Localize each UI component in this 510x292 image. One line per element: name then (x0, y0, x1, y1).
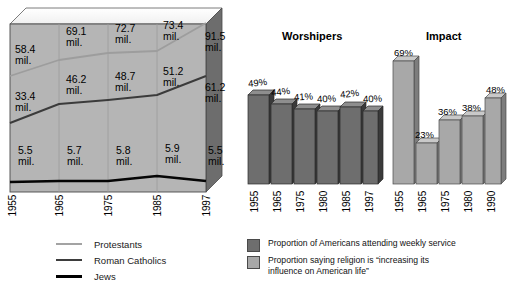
infographic-root: 58.4 mil. 69.1 mil. 72.7 mil. 73.4 mil. … (0, 0, 510, 292)
line-x-label-1955: 1955 (8, 195, 18, 216)
protestants-value-1965: 69.1 mil. (66, 26, 86, 48)
bar-legend-label-increasing-influence: Proportion saying religion is “increasin… (268, 255, 429, 276)
legend-label-roman-catholics: Roman Catholics (94, 255, 166, 266)
impact-x-label-1975: 1975 (441, 191, 451, 212)
catholics-value-1965: 46.2 mil. (66, 74, 86, 96)
protestants-value-1955: 58.4 mil. (15, 44, 35, 66)
jews-line-swatch-icon (56, 275, 82, 278)
bar-impact-1980 (462, 111, 488, 184)
increasing-influence-swatch-icon (247, 256, 260, 269)
worshipers-value-1965: 44% (270, 85, 290, 98)
impact-bar-chart: Impact (390, 30, 510, 220)
worshipers-value-1997: 40% (363, 93, 383, 105)
bar-impact-1965 (416, 138, 442, 184)
bar-legend-item-weekly-service: Proportion of Americans attending weekly… (247, 238, 509, 252)
worshipers-bar-chart: Worshipers (247, 30, 387, 220)
bar-worshipers-1997 (363, 106, 383, 184)
bar-worshipers-1975 (294, 104, 320, 184)
bar-worshipers-1985 (340, 102, 366, 184)
bar-impact-1955 (393, 56, 419, 184)
impact-value-1965: 23% (415, 129, 434, 140)
worshipers-x-label-1980: 1980 (319, 191, 329, 212)
worshipers-value-1955: 49% (247, 76, 267, 89)
impact-bars-svg (390, 48, 510, 188)
impact-x-label-1965: 1965 (418, 191, 428, 212)
bar-legend-line2: influence on American life” (268, 266, 369, 276)
jews-value-1955: 5.5 mil. (18, 145, 34, 167)
worshipers-value-1980: 40% (317, 93, 337, 105)
jews-value-1965: 5.7 mil. (67, 145, 83, 167)
catholics-value-1985: 51.2 mil. (163, 66, 183, 88)
religion-membership-line-chart: 58.4 mil. 69.1 mil. 72.7 mil. 73.4 mil. … (8, 4, 240, 219)
legend-item-roman-catholics: Roman Catholics (56, 252, 236, 268)
catholics-value-1997: 61.2 mil. (205, 82, 225, 104)
impact-x-label-1955: 1955 (395, 191, 405, 212)
jews-value-1997: 5.5 mil. (208, 145, 224, 167)
impact-x-label-1980: 1980 (464, 191, 474, 212)
bar-impact-1990 (485, 93, 506, 184)
impact-value-1975: 36% (438, 106, 457, 117)
catholics-value-1975: 48.7 mil. (115, 71, 135, 93)
bar-legend-label-weekly-service: Proportion of Americans attending weekly… (268, 238, 456, 249)
roman-catholics-line-swatch-icon (56, 259, 82, 261)
worshipers-value-1975: 41% (294, 90, 314, 102)
legend-item-protestants: Protestants (56, 236, 236, 252)
legend-label-protestants: Protestants (94, 239, 142, 250)
impact-chart-title: Impact (426, 30, 461, 42)
bar-worshipers-1980 (317, 106, 343, 184)
line-chart-legend: Protestants Roman Catholics Jews (56, 236, 236, 284)
catholics-value-1955: 33.4 mil. (15, 91, 35, 113)
bar-legend-line1: Proportion saying religion is “increasin… (268, 255, 429, 265)
impact-value-1980: 38% (462, 102, 481, 113)
impact-x-label-1990: 1990 (487, 191, 497, 212)
protestants-line-swatch-icon (56, 243, 82, 245)
protestants-value-1985: 73.4 mil. (163, 20, 183, 42)
line-x-label-1997: 1997 (202, 195, 212, 216)
protestants-value-1975: 72.7 mil. (115, 23, 135, 45)
line-x-label-1975: 1975 (104, 195, 114, 216)
bar-charts-legend: Proportion of Americans attending weekly… (247, 238, 509, 279)
worshipers-value-1985: 42% (339, 87, 359, 100)
line-x-label-1985: 1985 (153, 195, 163, 216)
bar-legend-item-increasing-influence: Proportion saying religion is “increasin… (247, 255, 509, 276)
legend-item-jews: Jews (56, 268, 236, 284)
bar-worshipers-1955 (248, 90, 274, 184)
weekly-service-swatch-icon (247, 239, 260, 252)
impact-value-1990: 48% (486, 84, 505, 95)
worshipers-x-label-1985: 1985 (342, 191, 352, 212)
worshipers-x-label-1955: 1955 (250, 191, 260, 212)
bar-worshipers-1965 (271, 99, 297, 184)
jews-value-1975: 5.8 mil. (116, 145, 132, 167)
protestants-value-1997: 91.5 mil. (205, 31, 225, 53)
worshipers-bars-svg (247, 48, 387, 188)
worshipers-x-label-1975: 1975 (296, 191, 306, 212)
worshipers-chart-title: Worshipers (282, 30, 342, 42)
worshipers-x-label-1965: 1965 (273, 191, 283, 212)
line-x-label-1965: 1965 (55, 195, 65, 216)
legend-label-jews: Jews (94, 271, 116, 282)
jews-value-1985: 5.9 mil. (165, 143, 181, 165)
impact-value-1955: 69% (394, 47, 413, 58)
bar-impact-1975 (439, 115, 465, 184)
worshipers-x-label-1997: 1997 (365, 191, 375, 212)
